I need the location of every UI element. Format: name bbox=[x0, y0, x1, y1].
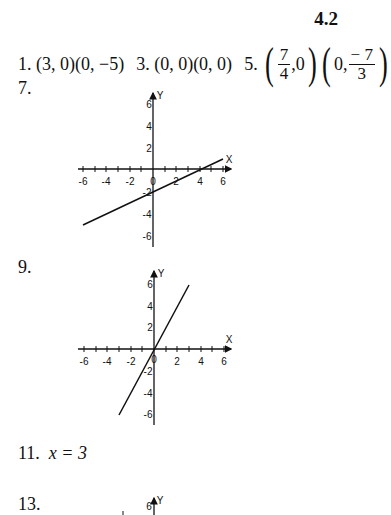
svg-text:-6: -6 bbox=[143, 231, 152, 242]
svg-text:2: 2 bbox=[174, 356, 180, 367]
svg-text:4: 4 bbox=[147, 301, 153, 312]
graph-9: -6-4-2 0246 642 -2-4-6 YX bbox=[78, 268, 233, 425]
svg-text:-6: -6 bbox=[79, 176, 88, 187]
svg-text:-6: -6 bbox=[80, 356, 89, 367]
svg-text:-6: -6 bbox=[144, 409, 153, 420]
svg-text:2: 2 bbox=[147, 322, 153, 333]
svg-text:6: 6 bbox=[146, 99, 152, 110]
svg-text:6: 6 bbox=[220, 176, 226, 187]
svg-text:4: 4 bbox=[146, 121, 152, 132]
answer-11-number: 11. bbox=[18, 443, 40, 463]
graph-7: -6-4-2 0246 642 -2-4-6 YX bbox=[78, 90, 233, 247]
svg-text:0: 0 bbox=[151, 354, 157, 365]
svg-text:2: 2 bbox=[146, 143, 152, 154]
close-paren: ) bbox=[379, 42, 388, 86]
svg-text:-2: -2 bbox=[126, 176, 135, 187]
svg-text:6: 6 bbox=[221, 356, 227, 367]
svg-text:6: 6 bbox=[147, 279, 153, 290]
svg-text:Y: Y bbox=[157, 90, 164, 101]
svg-text:X: X bbox=[226, 154, 233, 165]
answer-11-text: x = 3 bbox=[49, 443, 87, 463]
svg-text:X: X bbox=[226, 334, 233, 345]
answer-11: 11. x = 3 bbox=[18, 443, 87, 464]
svg-text:4: 4 bbox=[197, 176, 203, 187]
svg-text:-2: -2 bbox=[127, 356, 136, 367]
svg-text:-4: -4 bbox=[144, 388, 153, 399]
svg-text:-4: -4 bbox=[103, 356, 112, 367]
answer-9-number: 9. bbox=[18, 257, 32, 278]
svg-text:Y: Y bbox=[157, 495, 164, 506]
svg-text:4: 4 bbox=[198, 356, 204, 367]
svg-text:0: 0 bbox=[150, 176, 156, 187]
svg-text:Y: Y bbox=[158, 268, 165, 279]
svg-text:-4: -4 bbox=[143, 209, 152, 220]
svg-text:-4: -4 bbox=[102, 176, 111, 187]
svg-text:6: 6 bbox=[146, 501, 152, 512]
fraction-neg7-3: − 7 3 bbox=[349, 46, 375, 83]
answer-13-number: 13. bbox=[18, 494, 41, 515]
graph-13: 6 Y bbox=[123, 495, 164, 515]
